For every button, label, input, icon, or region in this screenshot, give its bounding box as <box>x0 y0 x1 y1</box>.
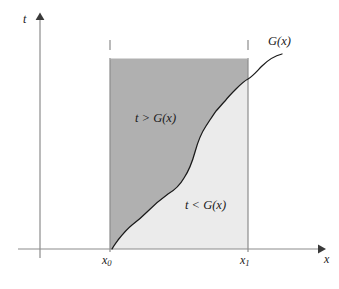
gx-curve-label: G(x) <box>268 35 291 48</box>
t-axis-label: t <box>23 13 26 25</box>
x-axis-label: x <box>324 253 329 265</box>
lower-region-label: t < G(x) <box>185 199 226 212</box>
x0-tick-subscript: 0 <box>107 258 111 268</box>
t-axis-arrowhead <box>36 13 45 21</box>
upper-region-label: t > G(x) <box>135 112 176 125</box>
figure-canvas: t x x0 x1 G(x) t > G(x) t < G(x) <box>0 0 339 289</box>
x1-tick-label: x1 <box>240 254 250 268</box>
x1-tick-subscript: 1 <box>245 258 249 268</box>
x0-tick-label: x0 <box>102 254 112 268</box>
